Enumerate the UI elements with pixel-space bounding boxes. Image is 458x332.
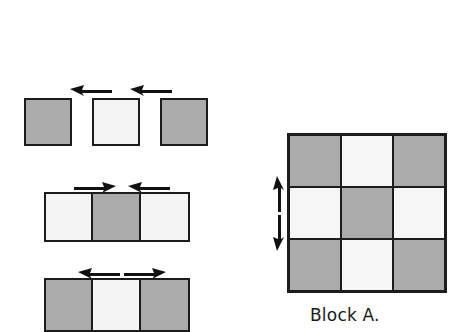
- arrow-left-icon: [66, 84, 112, 98]
- square-3: [160, 98, 208, 146]
- grid-cell: [290, 136, 340, 186]
- square-2: [92, 98, 140, 146]
- strip-cell: [46, 280, 93, 330]
- grid-cell: [290, 188, 340, 238]
- grid-cell: [342, 188, 392, 238]
- grid-cell: [394, 240, 444, 290]
- strip-cell: [93, 194, 140, 240]
- arrow-up-icon: [272, 172, 286, 212]
- strip-cell: [46, 194, 93, 240]
- grid-cell: [342, 136, 392, 186]
- strip-cell: [141, 194, 188, 240]
- strip-cell: [141, 280, 188, 330]
- joined-strip-row-3: [44, 278, 190, 332]
- block-a-grid: [287, 133, 447, 293]
- grid-cell: [342, 240, 392, 290]
- block-a-label: Block A.: [310, 305, 380, 325]
- arrow-down-icon: [272, 215, 286, 255]
- joined-strip-row-2: [44, 192, 190, 242]
- grid-cell: [394, 136, 444, 186]
- strip-cell: [93, 280, 140, 330]
- grid-cell: [394, 188, 444, 238]
- figure-canvas: Block A.: [0, 0, 458, 332]
- square-1: [24, 98, 72, 146]
- grid-cell: [290, 240, 340, 290]
- arrow-right-icon: [126, 84, 172, 98]
